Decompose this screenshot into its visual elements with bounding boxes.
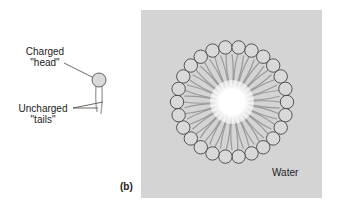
head-circle-icon bbox=[279, 82, 292, 95]
head-circle-icon bbox=[172, 108, 185, 121]
head-circle-icon bbox=[170, 95, 183, 108]
head-circle-icon bbox=[245, 44, 258, 57]
head-circle-icon bbox=[177, 121, 190, 134]
head-circle-icon bbox=[172, 82, 185, 95]
head-leader-line bbox=[64, 63, 94, 78]
head-circle-icon bbox=[245, 147, 258, 160]
head-circle-icon bbox=[206, 44, 219, 57]
head-circle-icon bbox=[257, 141, 270, 154]
tails-icon bbox=[96, 86, 103, 114]
head-circle-icon bbox=[232, 150, 245, 163]
diagram-graphics bbox=[0, 0, 340, 215]
head-circle-icon bbox=[194, 50, 207, 63]
head-circle-icon bbox=[232, 41, 245, 54]
head-circle-icon bbox=[92, 73, 106, 87]
head-circle-icon bbox=[219, 41, 232, 54]
micelle bbox=[170, 41, 293, 164]
head-circle-icon bbox=[280, 95, 293, 108]
head-circle-icon bbox=[274, 70, 287, 83]
tails-leader-line-1 bbox=[73, 102, 103, 108]
head-circle-icon bbox=[219, 150, 232, 163]
single-molecule bbox=[64, 63, 106, 114]
head-circle-icon bbox=[279, 108, 292, 121]
head-circle-icon bbox=[206, 147, 219, 160]
hydrophobic-core bbox=[210, 80, 254, 124]
